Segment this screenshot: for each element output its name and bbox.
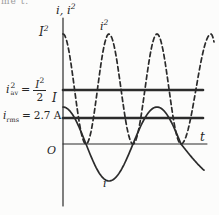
equals-sign: = xyxy=(21,84,30,95)
curve-label-i: i xyxy=(103,178,107,189)
annotation-i-rms: irms=2.7 A xyxy=(3,110,61,124)
y-tick-label-I-squared: I2 xyxy=(39,25,49,38)
x-axis-label: t xyxy=(200,131,205,143)
chart-canvas xyxy=(0,0,219,215)
i-rms-value: 2.7 A xyxy=(34,109,62,121)
curve-i-sq-superscript: 2 xyxy=(104,18,109,27)
annotation-i-squared-average: i2av = I2 2 xyxy=(6,77,46,103)
y-axis-label: i, i2 xyxy=(56,3,75,16)
fraction-numerator: I2 xyxy=(33,77,46,91)
curve-label-i-squared: i2 xyxy=(100,19,108,32)
y-axis-label-superscript: 2 xyxy=(71,2,76,11)
fraction-I-squared-over-2: I2 2 xyxy=(33,77,46,103)
fraction-numerator-superscript: 2 xyxy=(39,76,44,85)
equals-sign: = xyxy=(22,109,31,121)
i-rms-subscript: rms xyxy=(6,116,19,124)
textbook-figure-current-vs-time: me t. i, i2 I2 i2av = I2 2 I irms=2.7 A … xyxy=(0,0,219,215)
fraction-denominator: 2 xyxy=(36,91,43,103)
origin-label: O xyxy=(47,145,56,156)
i-sq-av-base: i xyxy=(6,84,10,95)
I-squared-superscript: 2 xyxy=(44,24,49,33)
cropped-page-text-fragment: me t. xyxy=(1,0,29,6)
i-sq-av-subscript: av xyxy=(11,90,19,97)
y-tick-label-I-peak: I xyxy=(52,92,57,104)
y-axis-label-base: i, i xyxy=(56,3,71,17)
